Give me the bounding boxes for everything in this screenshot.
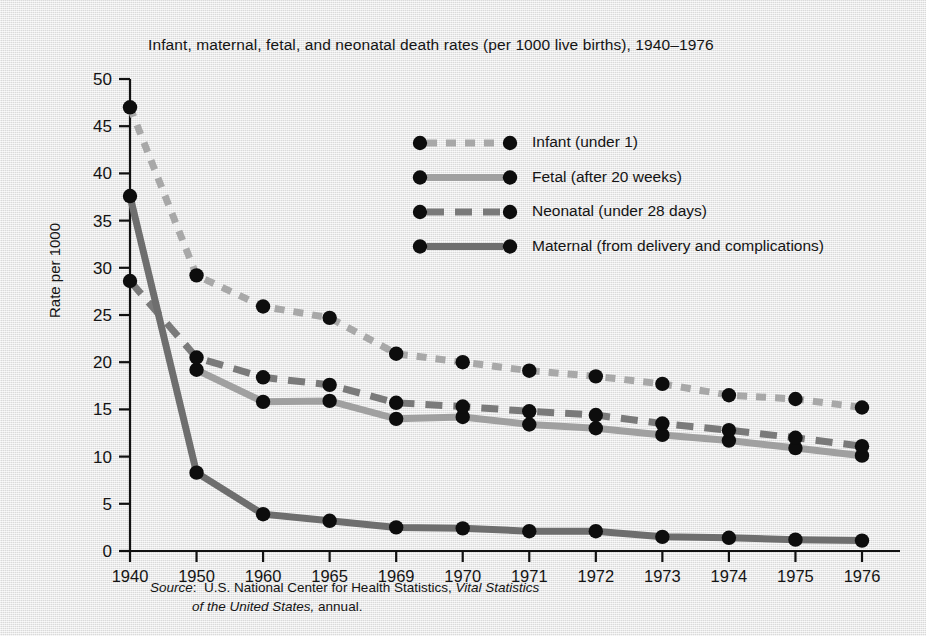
data-point-marker [389,412,403,426]
source-italic-1: Vital Statistics [455,580,539,595]
data-point-marker [855,533,869,547]
data-point-marker [788,431,802,445]
data-point-marker [123,189,137,203]
data-point-marker [322,514,336,528]
data-point-marker [256,370,270,384]
data-point-marker [655,377,669,391]
data-point-marker [389,347,403,361]
data-point-marker [322,311,336,325]
series-line [130,107,862,407]
axis-lines [130,79,900,551]
data-point-marker [189,363,203,377]
legend-item-label: Infant (under 1) [532,133,638,151]
source-lead: Source [150,580,193,595]
data-point-marker [256,507,270,521]
y-tick-label: 20 [93,353,112,372]
x-tick-label: 1973 [644,567,681,585]
legend-swatch-marker [503,205,517,219]
data-point-marker [322,378,336,392]
data-point-marker [522,363,536,377]
x-tick-label: 1974 [711,567,748,585]
legend-item-label: Fetal (after 20 weeks) [532,168,682,186]
y-tick-label: 50 [93,70,112,89]
x-tick-label: 1975 [777,567,814,585]
legend-item-label: Maternal (from delivery and complication… [532,237,824,255]
y-tick-label: 30 [93,259,112,278]
chart-plot: 05101520253035404550 1940195019601965196… [0,0,926,636]
data-series-layer [123,100,869,548]
y-tick-label: 45 [93,117,112,136]
data-point-marker [655,530,669,544]
data-point-marker [322,394,336,408]
y-tick-label: 15 [93,400,112,419]
source-colon: : [193,580,197,595]
data-point-marker [589,524,603,538]
source-body-2: annual. [318,599,362,614]
legend-swatch-marker [413,205,427,219]
source-italic-2: of the United States, [192,599,314,614]
data-point-marker [123,100,137,114]
data-point-marker [855,439,869,453]
chart-legend [413,136,517,254]
data-point-marker [788,532,802,546]
data-point-marker [522,404,536,418]
y-tick-label: 25 [93,306,112,325]
data-point-marker [522,417,536,431]
data-point-marker [456,521,470,535]
data-point-marker [456,355,470,369]
data-point-marker [256,299,270,313]
legend-item-label: Neonatal (under 28 days) [532,202,707,220]
legend-swatch-marker [503,136,517,150]
data-point-marker [189,350,203,364]
y-axis-ticks: 05101520253035404550 [93,70,130,561]
data-point-marker [855,400,869,414]
source-note: Source: U.S. National Center for Health … [150,578,539,616]
data-point-marker [522,524,536,538]
legend-swatch-marker [413,239,427,253]
legend-swatch-marker [413,170,427,184]
data-point-marker [189,465,203,479]
y-tick-label: 40 [93,164,112,183]
data-point-marker [722,423,736,437]
legend-swatch-marker [503,239,517,253]
data-point-marker [456,399,470,413]
data-point-marker [722,388,736,402]
source-body-1: U.S. National Center for Health Statisti… [204,580,452,595]
data-point-marker [589,421,603,435]
data-point-marker [655,416,669,430]
x-tick-label: 1940 [112,567,149,585]
x-tick-label: 1976 [844,567,881,585]
legend-swatch-marker [413,136,427,150]
y-tick-label: 35 [93,212,112,231]
data-point-marker [389,520,403,534]
chart-figure: Infant, maternal, fetal, and neonatal de… [0,0,926,636]
data-point-marker [788,392,802,406]
data-point-marker [389,396,403,410]
data-point-marker [722,531,736,545]
data-point-marker [189,268,203,282]
data-point-marker [123,274,137,288]
y-tick-label: 0 [103,542,112,561]
legend-swatch-marker [503,170,517,184]
data-point-marker [256,395,270,409]
data-point-marker [589,408,603,422]
y-tick-label: 5 [103,495,112,514]
x-tick-label: 1972 [577,567,614,585]
y-tick-label: 10 [93,448,112,467]
data-point-marker [589,369,603,383]
